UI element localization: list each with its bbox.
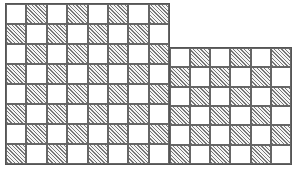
hatched-square [47, 104, 67, 124]
plain-square [230, 106, 250, 125]
plain-square [47, 124, 67, 144]
plain-square [210, 48, 230, 67]
hatched-square [149, 124, 169, 144]
plain-square [108, 104, 128, 124]
plain-square [190, 106, 210, 125]
hatched-square [6, 64, 26, 84]
plain-square [230, 145, 250, 164]
plain-square [108, 24, 128, 44]
plain-square [108, 144, 128, 164]
plain-square [210, 87, 230, 106]
plain-square [170, 125, 190, 144]
hatched-square [6, 24, 26, 44]
hatched-square [47, 64, 67, 84]
plain-square [271, 67, 291, 86]
hatched-square [210, 106, 230, 125]
hatched-square [6, 144, 26, 164]
plain-square [128, 124, 148, 144]
hatched-square [67, 84, 87, 104]
hatched-square [210, 67, 230, 86]
checkerboard-left [5, 3, 170, 165]
plain-square [88, 84, 108, 104]
checkerboard-right [169, 47, 292, 165]
plain-square [170, 87, 190, 106]
hatched-square [230, 48, 250, 67]
plain-square [47, 44, 67, 64]
hatched-square [128, 104, 148, 124]
hatched-square [210, 145, 230, 164]
hatched-square [108, 84, 128, 104]
hatched-square [149, 44, 169, 64]
plain-square [149, 144, 169, 164]
hatched-square [108, 4, 128, 24]
plain-square [108, 64, 128, 84]
hatched-square [67, 44, 87, 64]
plain-square [26, 64, 46, 84]
hatched-square [26, 124, 46, 144]
plain-square [88, 44, 108, 64]
plain-square [47, 4, 67, 24]
hatched-square [128, 24, 148, 44]
plain-square [251, 48, 271, 67]
plain-square [6, 4, 26, 24]
plain-square [271, 145, 291, 164]
plain-square [210, 125, 230, 144]
plain-square [67, 104, 87, 124]
plain-square [128, 84, 148, 104]
hatched-square [26, 84, 46, 104]
plain-square [251, 125, 271, 144]
hatched-square [26, 44, 46, 64]
hatched-square [88, 64, 108, 84]
hatched-square [170, 145, 190, 164]
hatched-square [190, 87, 210, 106]
hatched-square [149, 84, 169, 104]
hatched-square [149, 4, 169, 24]
hatched-square [271, 125, 291, 144]
hatched-square [190, 125, 210, 144]
plain-square [67, 64, 87, 84]
hatched-square [67, 4, 87, 24]
plain-square [6, 124, 26, 144]
hatched-square [190, 48, 210, 67]
hatched-square [271, 87, 291, 106]
plain-square [6, 44, 26, 64]
plain-square [230, 67, 250, 86]
hatched-square [47, 144, 67, 164]
plain-square [170, 48, 190, 67]
hatched-square [230, 87, 250, 106]
hatched-square [128, 144, 148, 164]
hatched-square [108, 44, 128, 64]
plain-square [88, 124, 108, 144]
plain-square [190, 145, 210, 164]
plain-square [26, 144, 46, 164]
hatched-square [170, 106, 190, 125]
hatched-square [271, 48, 291, 67]
plain-square [47, 84, 67, 104]
plain-square [26, 24, 46, 44]
plain-square [149, 64, 169, 84]
plain-square [128, 44, 148, 64]
plain-square [67, 144, 87, 164]
plain-square [251, 87, 271, 106]
hatched-square [88, 104, 108, 124]
hatched-square [88, 144, 108, 164]
hatched-square [6, 104, 26, 124]
plain-square [149, 24, 169, 44]
hatched-square [230, 125, 250, 144]
plain-square [149, 104, 169, 124]
hatched-square [26, 4, 46, 24]
hatched-square [108, 124, 128, 144]
plain-square [128, 4, 148, 24]
hatched-square [88, 24, 108, 44]
hatched-square [128, 64, 148, 84]
hatched-square [251, 145, 271, 164]
hatched-square [67, 124, 87, 144]
plain-square [271, 106, 291, 125]
plain-square [6, 84, 26, 104]
hatched-square [251, 106, 271, 125]
plain-square [67, 24, 87, 44]
plain-square [190, 67, 210, 86]
hatched-square [47, 24, 67, 44]
hatched-square [251, 67, 271, 86]
plain-square [26, 104, 46, 124]
